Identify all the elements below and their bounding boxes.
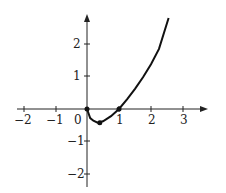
y-axis-arrow-icon	[84, 14, 90, 22]
function-curve	[87, 18, 169, 123]
x-tick-label: 2	[148, 113, 156, 127]
function-graph: −2 −1 1 2 3 0 2 1 −1 −2	[0, 0, 226, 193]
point-marker	[117, 107, 122, 112]
x-axis-arrow-icon	[200, 106, 208, 112]
x-tick-label: −2	[14, 113, 32, 127]
x-tick-label: −1	[46, 113, 64, 127]
point-marker	[85, 107, 90, 112]
x-tick-label: 1	[116, 113, 124, 127]
origin-label: 0	[74, 113, 82, 127]
point-marker	[97, 120, 102, 125]
y-tick-label: 1	[73, 69, 81, 83]
y-tick-label: 2	[73, 37, 81, 51]
y-tick-label: −1	[67, 134, 85, 148]
y-tick-label: −2	[67, 167, 85, 181]
x-tick-label: 3	[180, 113, 188, 127]
